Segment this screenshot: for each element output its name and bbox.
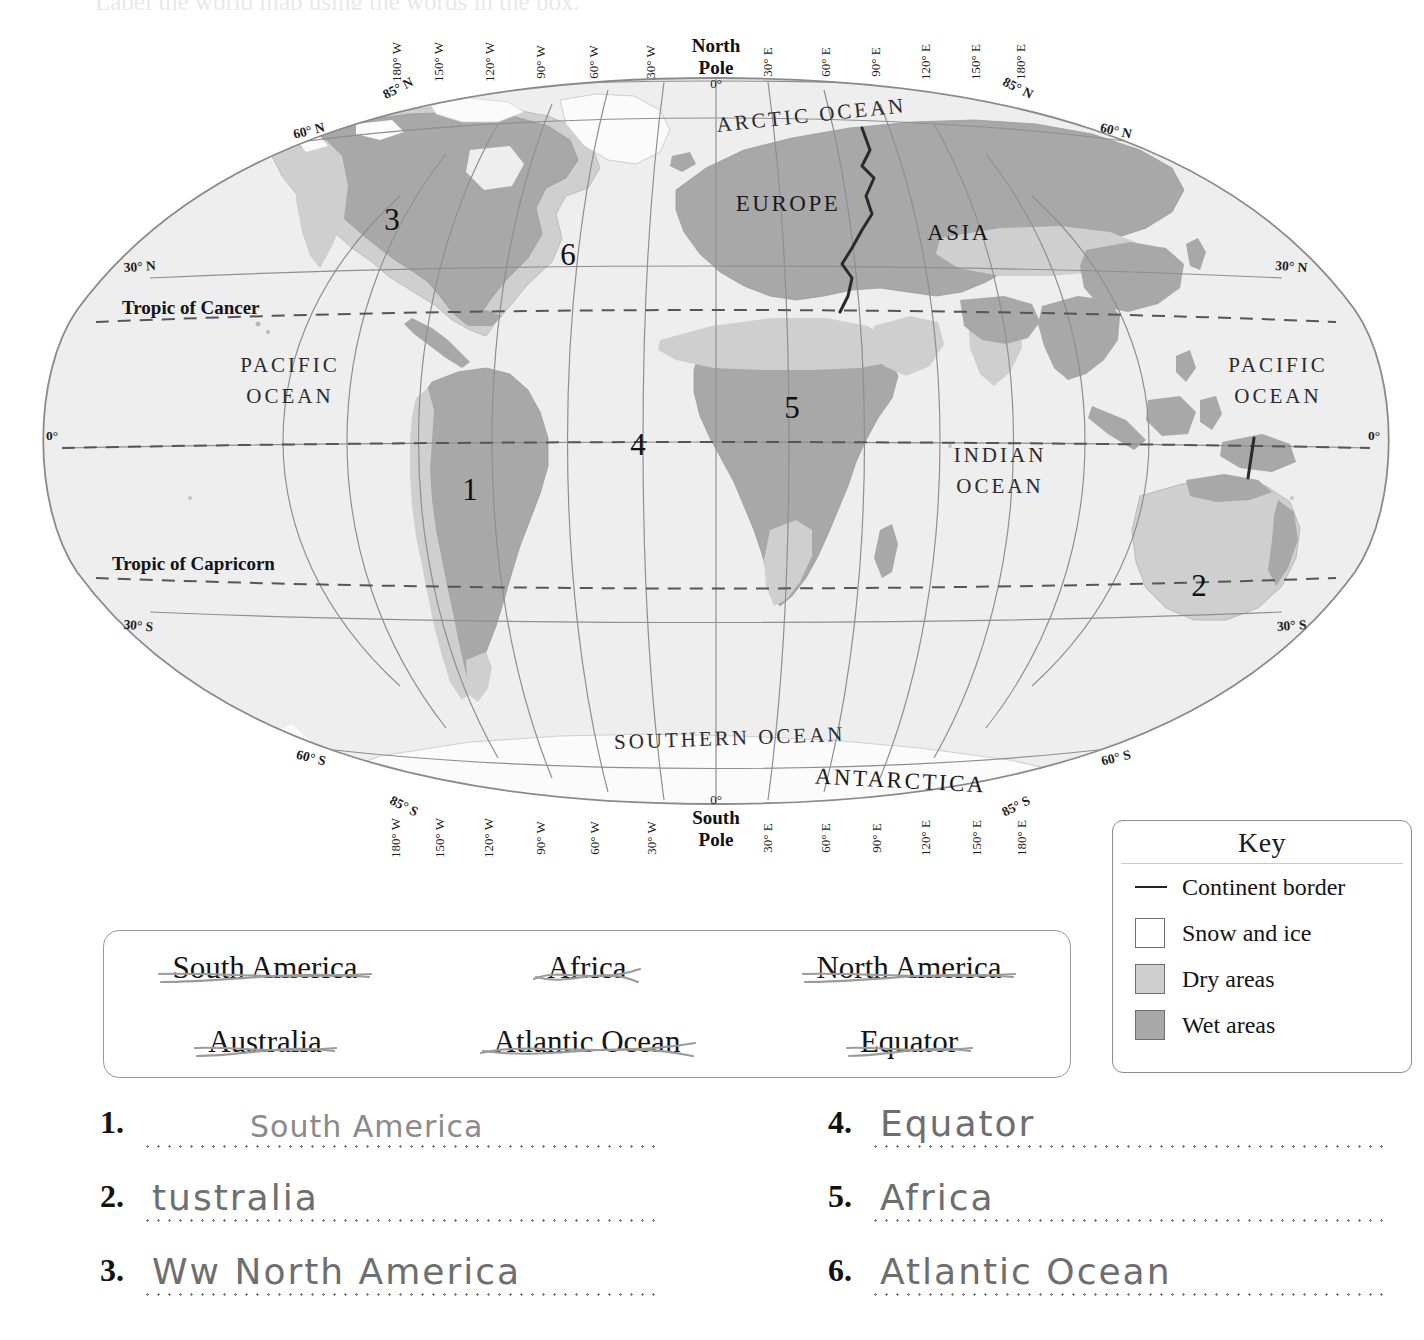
map-text-label: 150° E <box>969 820 984 856</box>
word-bank-word: Equator <box>857 1024 961 1060</box>
word-bank-item[interactable]: South America <box>104 950 426 986</box>
map-text-label: Pole <box>699 829 734 850</box>
word-bank-word: South America <box>169 950 360 986</box>
answer-row: 5.Africa <box>828 1164 1388 1238</box>
answer-dotted-line[interactable] <box>870 1219 1388 1222</box>
strikethrough-mark <box>157 950 374 994</box>
pencil-stroke <box>481 1043 695 1053</box>
map-text-label: 85° S <box>387 793 420 820</box>
pencil-stroke <box>803 974 1015 977</box>
key-label: Wet areas <box>1182 1012 1275 1039</box>
key-swatch-icon <box>1135 918 1165 948</box>
map-text-label: 180° E <box>1014 820 1029 856</box>
map-text-label: North <box>692 35 741 56</box>
word-bank-item[interactable]: North America <box>748 950 1070 986</box>
answer-dotted-line[interactable] <box>142 1219 660 1222</box>
key-swatch-icon <box>1135 964 1165 994</box>
pencil-stroke <box>534 969 640 979</box>
map-text-label: ASIA <box>927 220 991 245</box>
answer-number: 3. <box>100 1252 124 1289</box>
pencil-stroke <box>849 1049 970 1056</box>
map-text-label: 30° W <box>643 45 658 79</box>
map-text-label: 60° S <box>1100 747 1133 769</box>
map-key: Key Continent borderSnow and iceDry area… <box>1112 820 1412 1073</box>
map-number-3: 3 <box>384 202 400 237</box>
answers-column-right: 4.Equator5.Africa6.Atlantic Ocean <box>828 1090 1388 1312</box>
map-text-label: 90° W <box>533 821 548 855</box>
map-text-label: 120° W <box>482 41 497 82</box>
map-text-label: PACIFIC <box>1228 353 1328 377</box>
pencil-stroke <box>159 974 371 977</box>
map-text-label: PACIFIC <box>240 353 340 377</box>
strikethrough-mark <box>801 950 1018 994</box>
answer-handwriting: Equator <box>880 1103 1035 1144</box>
answer-dotted-line[interactable] <box>870 1293 1388 1296</box>
island-dot <box>188 496 192 500</box>
answer-dotted-line[interactable] <box>870 1145 1388 1148</box>
answer-section: 1.South America2.tustralia3.Ww North Ame… <box>0 1090 1424 1340</box>
answers-column-left: 1.South America2.tustralia3.Ww North Ame… <box>100 1090 660 1312</box>
answer-handwriting: Ww North America <box>152 1251 521 1292</box>
answer-dotted-line[interactable] <box>142 1293 660 1296</box>
word-bank-item[interactable]: Australia <box>104 1024 426 1060</box>
word-bank-row-1: South AmericaAfricaNorth America <box>104 931 1070 1005</box>
island-dot <box>1290 496 1294 500</box>
strikethrough-mark <box>193 1024 339 1068</box>
word-bank-word: North America <box>813 950 1004 986</box>
answer-dotted-line[interactable] <box>142 1145 660 1148</box>
key-label: Continent border <box>1182 874 1345 901</box>
map-text-label: Tropic of Capricorn <box>112 553 275 574</box>
pencil-stroke <box>195 1048 336 1051</box>
map-text-label: 0° <box>1368 428 1380 443</box>
map-text-label: 60° E <box>818 47 833 76</box>
key-label: Dry areas <box>1182 966 1275 993</box>
map-number-6: 6 <box>560 237 576 272</box>
pencil-stroke <box>536 975 638 982</box>
map-text-label: OCEAN <box>956 474 1043 498</box>
map-number-5: 5 <box>784 390 800 425</box>
pencil-stroke <box>847 1048 972 1051</box>
pencil-stroke <box>197 1049 334 1056</box>
word-bank-row-2: AustraliaAtlantic OceanEquator <box>104 1005 1070 1079</box>
word-bank: South AmericaAfricaNorth America Austral… <box>103 930 1071 1078</box>
answer-number: 4. <box>828 1104 852 1141</box>
island-dot <box>948 444 952 448</box>
word-bank-item[interactable]: Africa <box>426 950 748 986</box>
map-text-label: 150° W <box>432 817 447 858</box>
key-swatch-icon <box>1135 1010 1165 1040</box>
map-text-label: 30° E <box>760 47 775 76</box>
answer-row: 3.Ww North America <box>100 1238 660 1312</box>
map-text-label: EUROPE <box>736 191 840 216</box>
key-rows: Continent borderSnow and iceDry areasWet… <box>1113 864 1411 1048</box>
map-text-label: 30° E <box>760 823 775 852</box>
word-bank-item[interactable]: Equator <box>748 1024 1070 1060</box>
key-row: Continent border <box>1113 864 1411 910</box>
answer-number: 1. <box>100 1104 124 1141</box>
map-text-label: 30° S <box>1276 617 1307 634</box>
new-zealand-south <box>1300 642 1326 672</box>
word-bank-word: Africa <box>544 950 629 986</box>
map-text-label: 90° E <box>868 47 883 76</box>
map-text-label: 180° W <box>389 41 404 82</box>
word-bank-word: Australia <box>205 1024 325 1060</box>
key-row: Snow and ice <box>1113 910 1411 956</box>
strikethrough-mark <box>845 1024 975 1068</box>
word-bank-item[interactable]: Atlantic Ocean <box>426 1024 748 1060</box>
answer-number: 5. <box>828 1178 852 1215</box>
strikethrough-mark <box>479 1024 698 1068</box>
answer-row: 6.Atlantic Ocean <box>828 1238 1388 1312</box>
worksheet-heading-cutoff: Label the world map using the words in t… <box>95 0 795 10</box>
answer-handwriting: Africa <box>880 1177 995 1218</box>
answer-handwriting: tustralia <box>152 1177 319 1218</box>
map-text-label: OCEAN <box>246 384 333 408</box>
key-label: Snow and ice <box>1182 920 1311 947</box>
map-text-label: 150° E <box>968 44 983 80</box>
answer-handwriting: Atlantic Ocean <box>880 1251 1172 1292</box>
map-text-label: Pole <box>699 57 734 78</box>
map-text-label: 90° W <box>533 45 548 79</box>
map-text-label: 120° E <box>918 820 933 856</box>
map-number-1: 1 <box>462 472 478 507</box>
continent-border-line-icon <box>1135 886 1167 888</box>
map-text-label: 60° S <box>295 747 328 769</box>
pencil-stroke <box>483 1049 693 1056</box>
